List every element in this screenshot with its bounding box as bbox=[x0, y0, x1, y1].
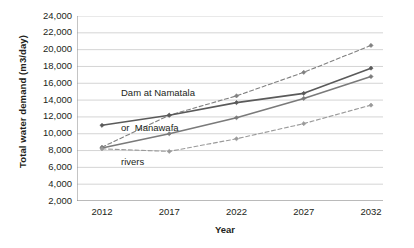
data-point-marker bbox=[369, 74, 373, 78]
data-point-marker bbox=[302, 122, 306, 126]
y-tick-label: 22,000 bbox=[20, 27, 72, 37]
dam-annotation-line-3: rivers bbox=[121, 156, 195, 168]
data-point-marker bbox=[302, 91, 306, 95]
y-tick-label: 16,000 bbox=[20, 78, 72, 88]
y-tick-label: 18,000 bbox=[20, 61, 72, 71]
y-tick-label: 20,000 bbox=[20, 44, 72, 54]
y-tick-label: 8,000 bbox=[20, 145, 72, 155]
x-tick-label: 2022 bbox=[207, 206, 267, 218]
y-tick-label: 24,000 bbox=[20, 11, 72, 21]
y-tick-label: 14,000 bbox=[20, 95, 72, 105]
data-point-marker bbox=[302, 70, 306, 74]
x-axis-tick-labels: 20122017202220272032 bbox=[0, 206, 414, 222]
y-tick-label: 12,000 bbox=[20, 111, 72, 121]
y-tick-label: 2,000 bbox=[20, 196, 72, 206]
y-tick-label: 6,000 bbox=[20, 162, 72, 172]
dam-annotation: Dam at Namatala or Manawafa rivers bbox=[121, 64, 195, 191]
x-axis-title: Year bbox=[0, 224, 414, 235]
data-point-marker bbox=[369, 103, 373, 107]
data-point-marker bbox=[234, 137, 238, 141]
dam-annotation-line-2: or Manawafa bbox=[121, 122, 195, 134]
x-tick-label: 2017 bbox=[139, 206, 199, 218]
y-tick-label: 10,000 bbox=[20, 128, 72, 138]
y-tick-label: 4,000 bbox=[20, 179, 72, 189]
x-tick-label: 2032 bbox=[341, 206, 401, 218]
water-demand-line-chart: Total water demand (m3/day) 24,00022,000… bbox=[0, 0, 414, 248]
data-point-marker bbox=[234, 94, 238, 98]
x-axis-title-text: Year bbox=[215, 224, 235, 235]
data-point-marker bbox=[234, 116, 238, 120]
data-point-marker bbox=[100, 123, 104, 127]
data-point-marker bbox=[234, 101, 238, 105]
data-point-marker bbox=[369, 43, 373, 47]
dam-annotation-line-1: Dam at Namatala bbox=[121, 87, 195, 99]
x-tick-label: 2027 bbox=[274, 206, 334, 218]
x-tick-label: 2012 bbox=[72, 206, 132, 218]
